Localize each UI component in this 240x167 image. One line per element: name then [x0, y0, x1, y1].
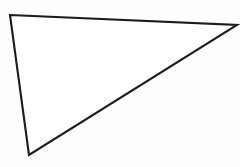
- triangle-diagram-svg: [0, 0, 240, 167]
- figure-canvas: [0, 0, 240, 167]
